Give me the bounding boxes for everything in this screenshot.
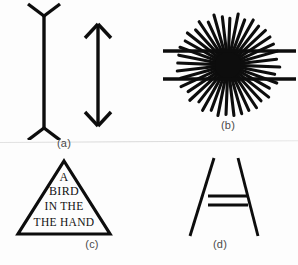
panel-label-b: (b) [198, 119, 258, 131]
illusion-figure-plate: A BIRD IN THE THE HAND (a) (b) (c) (d) [0, 0, 298, 265]
arrowhead-top-left [85, 24, 98, 38]
panel-hering-illusion [150, 0, 298, 135]
arrowhead-bottom-right [98, 112, 111, 126]
triangle-text-line-3: IN THE [45, 200, 84, 212]
muller-lyer-outward-figure [28, 4, 60, 140]
triangle-text-line-4: THE HAND [34, 216, 95, 228]
arrowhead-bottom-left [85, 112, 98, 126]
arrowhead-top-right [98, 24, 111, 38]
triangle-text-line-2: BIRD [49, 184, 79, 198]
panel-label-c: (c) [62, 238, 122, 250]
panel-ponzo-illusion [150, 150, 298, 245]
fin-top-right [44, 4, 60, 16]
panel-proofreading-triangle-illusion: A BIRD IN THE THE HAND [0, 150, 140, 245]
muller-lyer-inward-figure [85, 24, 111, 126]
sunburst-core [215, 52, 241, 78]
panel-label-d: (d) [190, 238, 250, 250]
panel-label-a: (a) [34, 137, 94, 149]
panel-muller-lyer-illusion [0, 0, 140, 140]
fin-top-left [28, 4, 44, 16]
triangle-text-line-1: A [60, 170, 69, 184]
